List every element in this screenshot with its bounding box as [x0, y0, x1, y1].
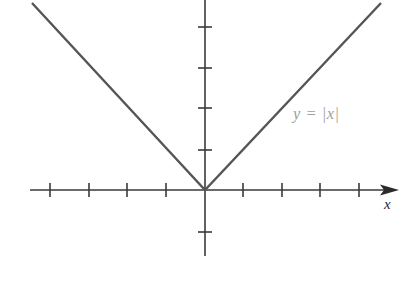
plot-canvas: [0, 0, 419, 283]
curve-equation-label: y = |x|: [293, 104, 340, 124]
x-axis-label: x: [384, 196, 391, 213]
absolute-value-curve: [32, 3, 381, 190]
absolute-value-graph-figure: y = |x| x: [0, 0, 419, 283]
